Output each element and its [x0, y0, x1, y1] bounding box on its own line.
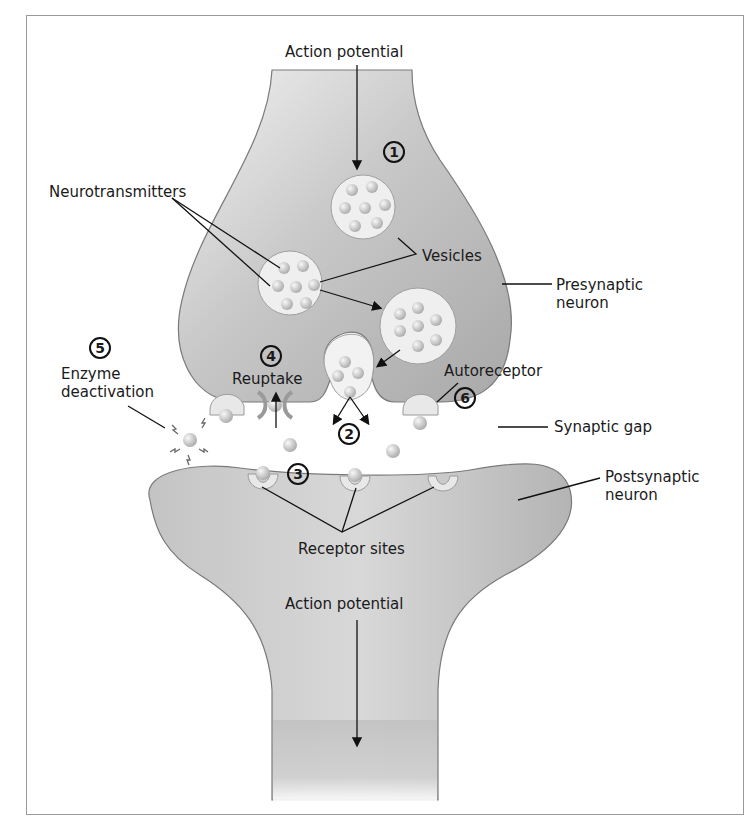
- autoreceptor-left: [210, 394, 244, 423]
- label-vesicles: Vesicles: [422, 247, 482, 265]
- label-action-potential-bottom: Action potential: [285, 595, 403, 613]
- step-marker-6: 6: [454, 387, 476, 409]
- leader-enzyme: [128, 406, 165, 428]
- step-marker-1: 1: [383, 141, 405, 163]
- release-arrow-right: [350, 397, 368, 423]
- autoreceptor-right: [403, 394, 438, 430]
- label-neurotransmitters: Neurotransmitters: [49, 183, 186, 201]
- label-synaptic-gap: Synaptic gap: [554, 418, 652, 436]
- synapse-illustration: [0, 0, 756, 830]
- label-presynaptic-line1: Presynaptic: [556, 276, 643, 294]
- label-presynaptic-line2: neuron: [556, 294, 609, 312]
- vesicle: [331, 175, 395, 239]
- label-enzyme-line1: Enzyme: [61, 365, 121, 383]
- fusing-vesicle: [324, 334, 374, 400]
- release-arrow-left: [334, 397, 350, 423]
- degraded-neurotransmitter: [183, 433, 197, 447]
- label-autoreceptor: Autoreceptor: [444, 362, 542, 380]
- label-reuptake: Reuptake: [232, 370, 302, 388]
- step-marker-2: 2: [338, 423, 360, 445]
- neurotransmitter: [386, 444, 400, 458]
- vesicle: [380, 288, 456, 364]
- label-enzyme-line2: deactivation: [61, 383, 154, 401]
- step-marker-3: 3: [287, 463, 309, 485]
- receptor-site: [340, 468, 370, 491]
- label-action-potential-top: Action potential: [285, 43, 403, 61]
- step-marker-4: 4: [260, 345, 282, 367]
- label-postsynaptic-line1: Postsynaptic: [605, 468, 700, 486]
- step-marker-5: 5: [89, 337, 111, 359]
- neurotransmitter: [283, 438, 297, 452]
- label-receptor-sites: Receptor sites: [298, 540, 405, 558]
- label-postsynaptic-line2: neuron: [605, 486, 658, 504]
